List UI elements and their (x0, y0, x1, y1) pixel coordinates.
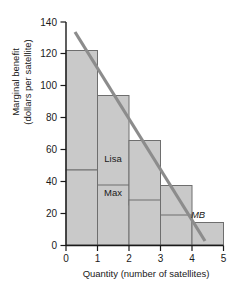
y-axis-title: Marginal benefit (dollars per satellite) (10, 39, 33, 125)
series-label-lisa: Lisa (104, 153, 122, 164)
y-tick-label-60: 60 (46, 144, 58, 155)
y-tick-label-140: 140 (40, 17, 57, 28)
stacked-bar-3 (129, 141, 161, 246)
chart-canvas: 0 20 40 60 80 100 120 140 0 1 2 3 4 5 (0, 0, 234, 288)
y-tick-label-100: 100 (40, 80, 57, 91)
stacked-bar-2 (98, 96, 130, 246)
x-tick-label-2: 2 (126, 253, 132, 264)
x-tick-label-1: 1 (95, 253, 101, 264)
stacked-bar-1 (66, 51, 98, 246)
x-axis-ticks (66, 246, 224, 252)
marginal-benefit-chart-figure: 0 20 40 60 80 100 120 140 0 1 2 3 4 5 (0, 0, 234, 288)
x-axis-title: Quantity (number of satellites) (83, 268, 210, 279)
x-axis-tick-labels: 0 1 2 3 4 5 (63, 253, 227, 264)
y-axis-tick-labels: 0 20 40 60 80 100 120 140 (40, 17, 57, 252)
x-tick-label-4: 4 (189, 253, 195, 264)
y-axis-title-line-2: (dollars per satellite) (22, 39, 33, 125)
y-tick-label-0: 0 (51, 240, 57, 251)
bar-1-lisa-segment (66, 51, 98, 171)
marginal-benefit-curve-label: MB (191, 209, 206, 220)
y-axis-title-line-1: Marginal benefit (10, 48, 21, 116)
x-tick-label-0: 0 (63, 253, 69, 264)
y-tick-label-40: 40 (46, 176, 58, 187)
bar-3-lisa-segment (129, 141, 161, 206)
y-tick-label-20: 20 (46, 208, 58, 219)
bar-3-max-segment (129, 200, 161, 245)
x-tick-label-5: 5 (221, 253, 227, 264)
bar-1-max-segment (66, 170, 98, 245)
y-tick-label-120: 120 (40, 48, 57, 59)
x-tick-label-3: 3 (158, 253, 164, 264)
y-axis-ticks (61, 22, 67, 246)
bar-4-max-segment (161, 215, 193, 245)
series-label-max: Max (104, 187, 122, 198)
y-tick-label-80: 80 (46, 112, 58, 123)
